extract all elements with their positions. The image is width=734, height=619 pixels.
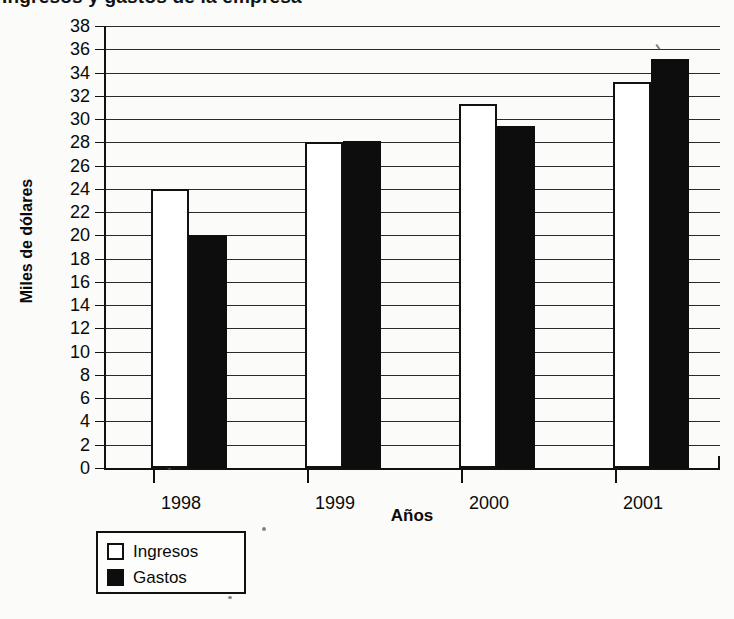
- scan-speck: [262, 527, 266, 531]
- bar-gastos-1998: [189, 235, 227, 468]
- y-axis-tick-label: 4: [80, 412, 90, 430]
- bar-gastos-2000: [497, 126, 535, 468]
- y-axis-tick-label: 18: [70, 250, 90, 268]
- x-axis-line: [104, 468, 720, 470]
- gridline: [104, 73, 720, 74]
- y-axis-tick-label: 20: [70, 226, 90, 244]
- legend-item-gastos: Gastos: [107, 564, 244, 590]
- gridline: [104, 26, 720, 27]
- x-axis-tick-mark: [461, 470, 463, 483]
- bar-ingresos-1999: [305, 142, 343, 468]
- bar-ingresos-2000: [459, 104, 497, 468]
- x-axis-right-end: [718, 456, 720, 470]
- y-axis-tick-label: 12: [70, 319, 90, 337]
- y-axis-tick-label: 6: [80, 389, 90, 407]
- y-axis-line: [104, 26, 106, 470]
- chart-title: Ingresos y gastos de la empresa: [2, 0, 522, 12]
- x-axis-tick-mark: [307, 470, 309, 483]
- bar-gastos-2001: [651, 59, 689, 468]
- chart-legend: Ingresos Gastos: [96, 531, 246, 594]
- bar-ingresos-1998: [151, 189, 189, 468]
- legend-label-gastos: Gastos: [133, 569, 187, 586]
- chart-page: Ingresos y gastos de la empresa Miles de…: [0, 0, 734, 619]
- bar-gastos-1999: [343, 141, 381, 468]
- y-axis-tick-label: 10: [70, 343, 90, 361]
- x-axis-title: Años: [104, 506, 720, 526]
- y-axis-tick-label: 32: [70, 87, 90, 105]
- y-axis-tick-label: 34: [70, 64, 90, 82]
- legend-swatch-icon-ingresos: [107, 543, 124, 560]
- y-axis-tick-label: 26: [70, 157, 90, 175]
- y-axis-tick-label: 16: [70, 273, 90, 291]
- bar-ingresos-2001: [613, 82, 651, 468]
- y-axis-title: Miles de dólares: [18, 131, 36, 351]
- legend-item-ingresos: Ingresos: [107, 538, 244, 564]
- y-axis-tick-label: 28: [70, 133, 90, 151]
- x-axis-tick-mark: [615, 470, 617, 483]
- y-axis-tick-label: 2: [80, 436, 90, 454]
- y-axis-tick-label: 22: [70, 203, 90, 221]
- plot-area: 02468101214161820222426283032343638 1998…: [104, 26, 720, 470]
- legend-swatch-icon-gastos: [107, 569, 124, 586]
- y-axis-tick-label: 36: [70, 40, 90, 58]
- y-axis-tick-label: 30: [70, 110, 90, 128]
- scan-speck: [228, 596, 232, 599]
- gridline: [104, 49, 720, 50]
- y-axis-tick-label: 38: [70, 17, 90, 35]
- x-axis-tick-mark: [153, 470, 155, 483]
- y-axis-tick-label: 8: [80, 366, 90, 384]
- y-axis-tick-label: 0: [80, 459, 90, 477]
- y-axis-tick-label: 24: [70, 180, 90, 198]
- y-axis-tick-label: 14: [70, 296, 90, 314]
- legend-label-ingresos: Ingresos: [133, 543, 198, 560]
